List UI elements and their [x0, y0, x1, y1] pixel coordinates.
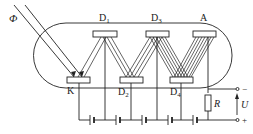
voltage-label: U — [241, 99, 249, 110]
dynode-d3 — [146, 31, 169, 37]
dynode-d4 — [170, 77, 193, 83]
resistor-label: R — [213, 98, 220, 109]
cathode-label: K — [67, 85, 75, 96]
incoming-light-rays — [14, 5, 82, 77]
photomultiplier-diagram: Φ D1 D3 A K D2 D4 R U − + — [0, 0, 253, 134]
dynode-d1 — [93, 31, 117, 37]
terminal-negative-label: − — [242, 84, 247, 94]
resistor — [205, 95, 211, 111]
terminal-positive-label: + — [242, 115, 247, 125]
anode-label: A — [200, 12, 208, 23]
anode — [193, 31, 216, 37]
electron-paths-k-d1 — [78, 37, 214, 77]
voltage-arrowhead — [235, 93, 239, 99]
cathode — [67, 77, 90, 83]
flux-label: Φ — [9, 12, 18, 24]
terminal-negative — [236, 88, 239, 91]
tube-envelope — [34, 23, 233, 88]
terminal-positive — [236, 119, 239, 122]
battery-chain — [79, 115, 236, 125]
dynode-d2 — [120, 77, 143, 83]
